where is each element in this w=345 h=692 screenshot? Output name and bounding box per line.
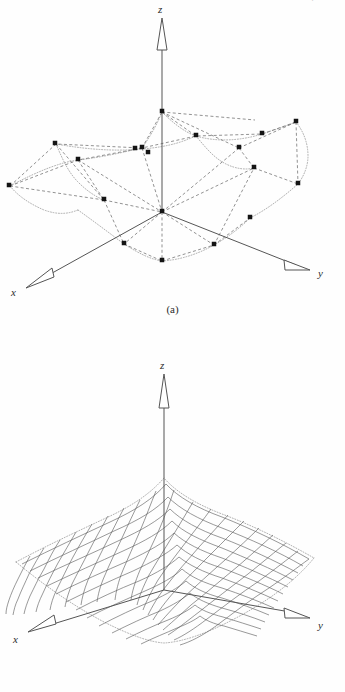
data-point [296,181,300,185]
figure-a-axes: z x y [10,3,323,298]
data-point [160,258,164,262]
x-axis-arrowhead-b [28,615,56,632]
data-point [160,109,164,113]
data-point [122,241,126,245]
figure-b-plot: z x y [0,350,345,660]
x-axis-arrowhead-a [26,268,54,288]
data-point [76,157,80,161]
z-axis-label-a: z [157,3,163,15]
figure-b: z x y (b) [0,350,345,692]
z-axis-arrowhead-b [159,374,169,408]
page-canvas: Chapter 9 [0,0,345,692]
y-axis-a [162,212,296,265]
data-point [146,150,150,154]
data-point [294,119,298,123]
data-point [194,133,198,137]
y-axis-arrowhead-a [284,260,310,270]
z-axis-label-b: z [159,359,165,371]
z-axis-arrowhead-a [157,18,167,50]
data-point [260,131,264,135]
figure-a: z x y [0,0,345,345]
x-axis-label-b: x [12,633,18,645]
x-axis-label-a: x [10,286,16,298]
x-axis-a [36,212,162,282]
data-point [102,197,106,201]
figure-a-plot: z x y [0,0,345,310]
data-point [53,141,57,145]
figure-b-axes: z x y [12,359,323,645]
data-point [212,242,216,246]
data-point [7,183,11,187]
y-axis-label-b: y [317,619,323,631]
data-point [160,209,164,213]
data-point [237,145,241,149]
data-point [140,145,144,149]
figure-a-caption: (a) [0,303,345,315]
data-point [248,215,252,219]
data-point [133,146,137,150]
y-axis-arrowhead-b [284,608,310,618]
figure-a-mesh-dashed [10,112,298,261]
figure-b-reference-outline [16,478,314,643]
y-axis-label-a: y [317,267,323,279]
data-point [252,165,256,169]
x-axis-b [40,590,164,628]
